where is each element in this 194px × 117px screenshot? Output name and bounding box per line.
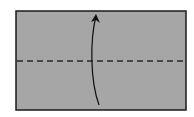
- origami-diagram: [0, 0, 194, 117]
